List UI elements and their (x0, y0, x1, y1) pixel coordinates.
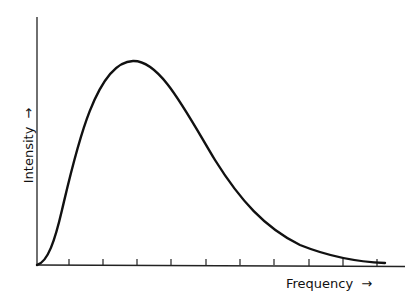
intensity-curve (37, 61, 385, 265)
y-axis-title: Intensity (21, 127, 36, 184)
y-arrow-icon: → (21, 108, 36, 119)
x-axis-title: Frequency (286, 276, 353, 291)
chart-plot (0, 0, 420, 308)
y-axis-label: Intensity→ (21, 106, 36, 186)
x-arrow-icon: → (361, 276, 372, 291)
x-axis-label: Frequency→ (286, 276, 372, 291)
x-axis (36, 265, 405, 267)
